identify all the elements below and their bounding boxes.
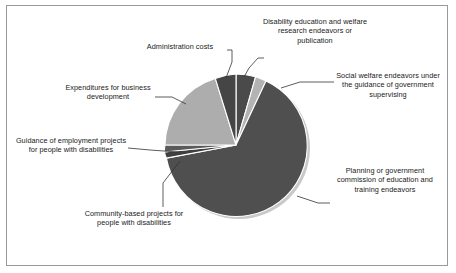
label-social-welfare: Social welfare endeavors under the guida… bbox=[336, 71, 440, 99]
leader-line-administration bbox=[226, 50, 232, 78]
label-disability-education: Disability education and welfare researc… bbox=[262, 17, 368, 45]
leader-line-disability bbox=[244, 58, 264, 77]
label-employment-guidance: Guidance of employment projects for peop… bbox=[14, 136, 128, 155]
leader-line-planning bbox=[297, 196, 330, 203]
label-planning-commission: Planning or government commission of edu… bbox=[330, 166, 440, 194]
label-administration-costs: Administration costs bbox=[128, 42, 232, 51]
label-community-based-projects: Community-based projects for people with… bbox=[82, 209, 186, 228]
label-business-development: Expenditures for business development bbox=[50, 83, 166, 102]
leader-line-social bbox=[281, 82, 334, 88]
